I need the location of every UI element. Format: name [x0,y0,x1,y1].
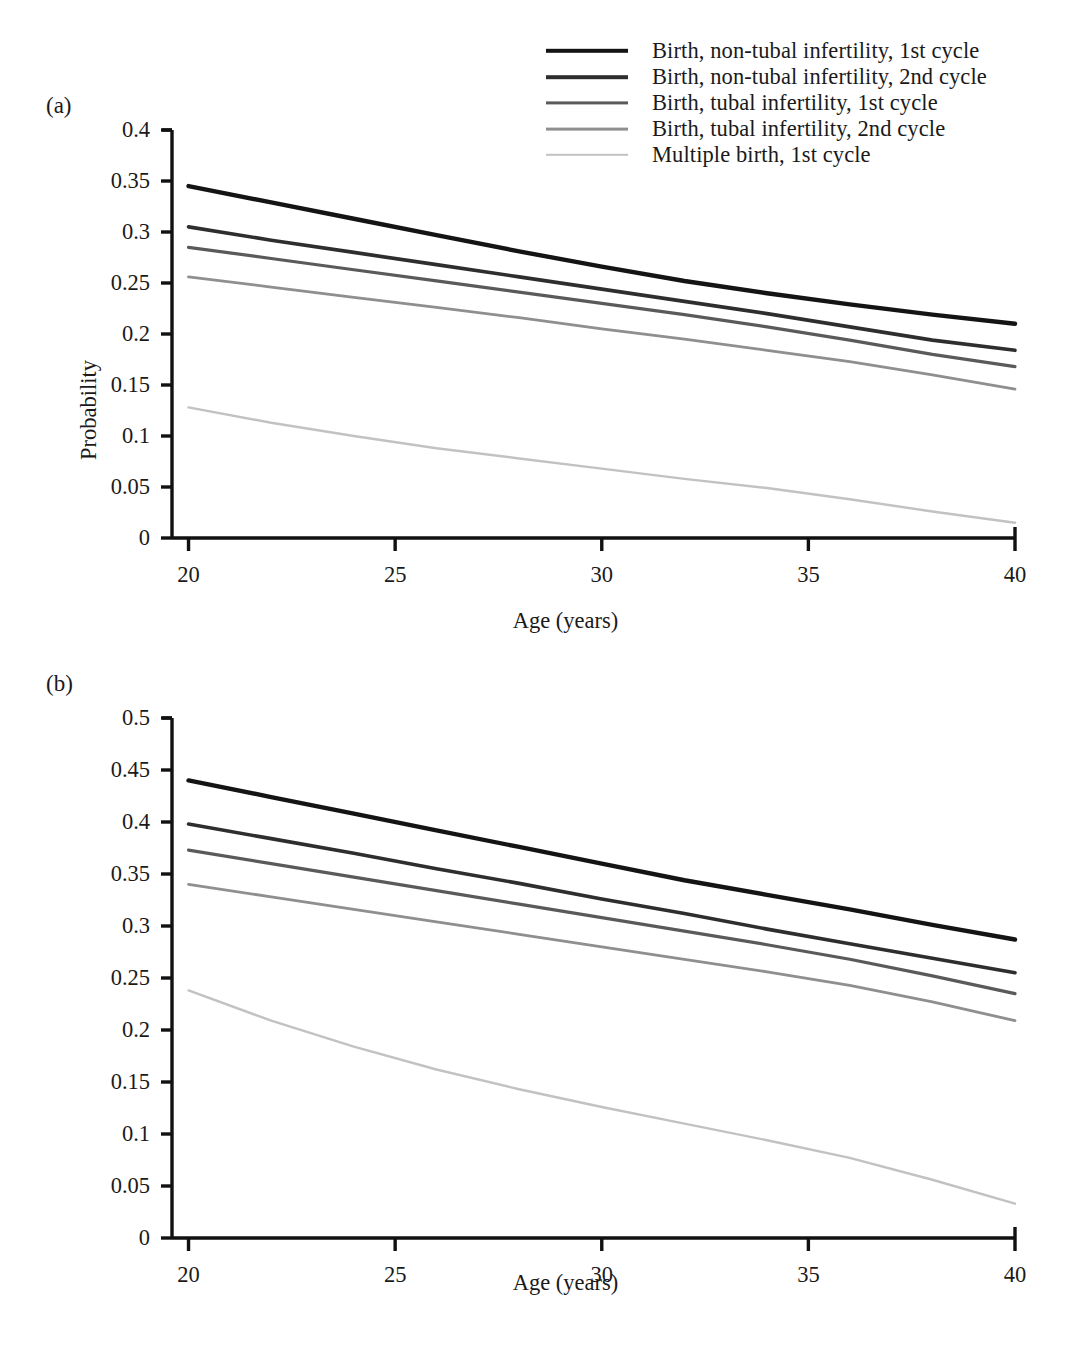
y-tick-label: 0 [40,527,150,550]
y-tick-label: 0.25 [40,967,150,990]
y-tick-label: 0.05 [40,1175,150,1198]
x-tick-label: 25 [384,1264,407,1287]
data-series-line [189,824,1015,973]
data-series-line [189,850,1015,994]
x-tick-label: 40 [1004,1264,1027,1287]
data-series-line [189,780,1015,939]
x-tick-label: 30 [591,564,614,587]
y-tick-label: 0.35 [40,863,150,886]
x-axis-title-a: Age (years) [30,610,1071,633]
plot-area-a [0,80,1071,640]
y-tick-label: 0.2 [40,1019,150,1042]
y-tick-label: 0.35 [40,170,150,193]
plot-area-b [0,660,1071,1360]
y-tick-label: 0.4 [40,811,150,834]
y-tick-label: 0.2 [40,323,150,346]
y-tick-label: 0.1 [40,425,150,448]
y-tick-label: 0.3 [40,915,150,938]
y-tick-label: 0.45 [40,759,150,782]
data-series-line [189,227,1015,350]
x-tick-label: 20 [177,564,200,587]
y-tick-label: 0.4 [40,119,150,142]
chart-panel-a: (a) Age (years) Probability 00.050.10.15… [0,80,1071,640]
y-tick-label: 0.5 [40,707,150,730]
y-tick-label: 0.05 [40,476,150,499]
x-tick-label: 35 [797,564,820,587]
data-series-line [189,407,1015,522]
y-tick-label: 0 [40,1227,150,1250]
x-tick-label: 25 [384,564,407,587]
x-tick-label: 40 [1004,564,1027,587]
y-tick-label: 0.25 [40,272,150,295]
y-tick-label: 0.15 [40,374,150,397]
legend-line-swatch [546,44,628,58]
y-tick-label: 0.1 [40,1123,150,1146]
y-tick-label: 0.3 [40,221,150,244]
data-series-line [189,990,1015,1203]
x-tick-label: 20 [177,1264,200,1287]
figure-root: Birth, non-tubal infertility, 1st cycleB… [0,0,1071,1371]
x-tick-label: 35 [797,1264,820,1287]
x-tick-label: 30 [591,1264,614,1287]
legend-item: Birth, non-tubal infertility, 1st cycle [546,38,1066,64]
y-tick-label: 0.15 [40,1071,150,1094]
chart-panel-b: (b) Age (years) Probability 00.050.10.15… [0,660,1071,1360]
legend-item-label: Birth, non-tubal infertility, 1st cycle [628,38,979,64]
